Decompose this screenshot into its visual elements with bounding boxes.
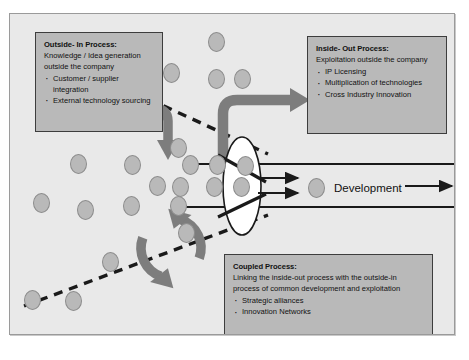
idea-dot-icon bbox=[124, 155, 141, 175]
list-item: Multiplication of technologies bbox=[316, 78, 438, 89]
outside-in-title: Outside- In Process: bbox=[44, 40, 154, 51]
idea-dot-icon bbox=[149, 176, 166, 196]
idea-dot-icon bbox=[65, 291, 82, 311]
list-item: Cross Industry Innovation bbox=[316, 90, 438, 101]
callout-coupled-process[interactable]: Coupled Process: Linking the inside-out … bbox=[224, 254, 433, 335]
idea-dot-icon bbox=[233, 177, 250, 197]
idea-dot-icon bbox=[206, 177, 223, 197]
callout-outside-in-process[interactable]: Outside- In Process: Knowledge / Idea ge… bbox=[35, 32, 163, 132]
idea-dot-icon bbox=[33, 193, 50, 213]
callout-inside-out-process[interactable]: Inside- Out Process: Exploitation outsid… bbox=[307, 36, 447, 134]
outside-in-bullets: Customer / supplier integration External… bbox=[44, 74, 154, 107]
idea-dot-icon bbox=[234, 69, 251, 89]
diagram-canvas: Outside- In Process: Knowledge / Idea ge… bbox=[9, 13, 455, 335]
idea-dot-icon bbox=[182, 155, 199, 175]
list-item: Strategic alliances bbox=[233, 296, 424, 307]
list-item: External technology sourcing bbox=[44, 96, 154, 107]
circular-cycle-arrow-icon bbox=[133, 207, 210, 290]
idea-dot-icon bbox=[163, 63, 180, 83]
inside-out-bullets: IP Licensing Multiplication of technolog… bbox=[316, 67, 438, 100]
idea-dot-icon bbox=[208, 32, 225, 52]
idea-dot-icon bbox=[172, 177, 189, 197]
coupled-subtitle: Linking the inside-out process with the … bbox=[233, 273, 424, 295]
coupled-title: Coupled Process: bbox=[233, 262, 424, 273]
list-item: Customer / supplier integration bbox=[44, 74, 154, 96]
idea-dot-icon bbox=[178, 223, 195, 243]
idea-dot-icon bbox=[170, 138, 187, 158]
list-item: Innovation Networks bbox=[233, 307, 424, 318]
diagram-stage: Outside- In Process: Knowledge / Idea ge… bbox=[0, 0, 469, 360]
idea-dot-icon bbox=[102, 252, 119, 272]
idea-dot-icon bbox=[209, 155, 226, 175]
idea-dot-icon bbox=[123, 196, 140, 216]
coupled-bullets: Strategic alliances Innovation Networks bbox=[233, 296, 424, 318]
idea-dot-icon bbox=[237, 156, 254, 176]
idea-dot-icon bbox=[77, 200, 94, 220]
development-label: Development bbox=[334, 182, 402, 194]
idea-dot-icon bbox=[24, 290, 41, 310]
list-item: IP Licensing bbox=[316, 67, 438, 78]
inside-out-subtitle: Exploitation outside the company bbox=[316, 55, 438, 66]
idea-dot-icon bbox=[70, 154, 87, 174]
outside-in-subtitle: Knowledge / Idea generation outside the … bbox=[44, 51, 154, 73]
inside-out-title: Inside- Out Process: bbox=[316, 44, 438, 55]
idea-dot-icon bbox=[208, 69, 225, 89]
idea-dot-icon bbox=[308, 178, 325, 198]
idea-dot-icon bbox=[170, 196, 187, 216]
